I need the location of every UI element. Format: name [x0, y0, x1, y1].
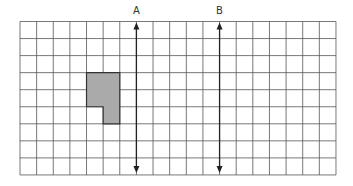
line-label: A: [133, 5, 140, 16]
mirror-line-b: B: [216, 5, 223, 173]
line-label: B: [216, 5, 223, 16]
gray-l-shape: [87, 73, 120, 124]
arrowhead-up-icon: [217, 23, 223, 30]
square-grid: [20, 22, 336, 175]
arrowhead-down-icon: [217, 166, 223, 173]
mirror-line-a: A: [133, 5, 140, 173]
arrowhead-down-icon: [133, 166, 139, 173]
arrowhead-up-icon: [133, 23, 139, 30]
mirror-lines: AB: [133, 5, 223, 173]
grid-diagram: AB: [0, 0, 353, 186]
